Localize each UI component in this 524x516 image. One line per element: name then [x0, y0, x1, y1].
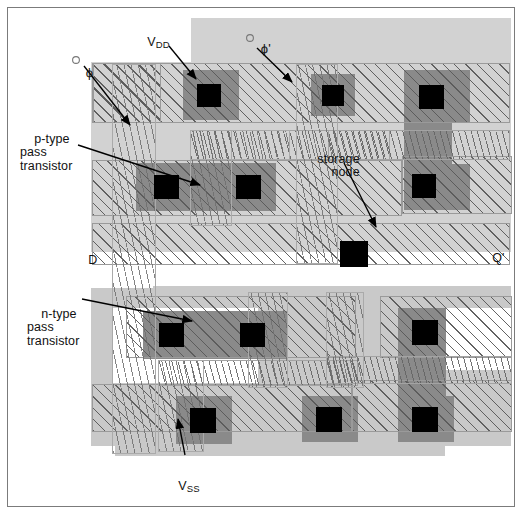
leader-vss	[178, 419, 185, 455]
label-phi: ϕ	[71, 52, 93, 93]
label-d-text: D	[88, 253, 97, 267]
label-vss: VSS	[164, 466, 200, 509]
label-phi-prime: ϕ'	[246, 28, 271, 69]
label-p-type-pass-transistor: p-type pass transistor	[20, 119, 72, 187]
label-vss-sub: SS	[187, 483, 200, 494]
label-p-type-text: p-type pass transistor	[20, 132, 72, 173]
figure-cmos-layout: VDD ϕ ϕ' p-type pass transistor storage …	[0, 0, 524, 516]
label-vss-text: V	[178, 479, 186, 493]
leader-vdd	[169, 46, 196, 79]
label-storage-node-text: storage node	[317, 152, 359, 180]
label-phi-prime-text: ϕ'	[261, 41, 271, 56]
label-storage-node: storage node	[303, 139, 360, 193]
leader-n-type	[82, 299, 192, 321]
label-n-type-pass-transistor: n-type pass transistor	[27, 294, 79, 362]
label-q-prime: Q'	[478, 238, 505, 279]
label-q-prime-text: Q'	[492, 251, 504, 265]
label-vdd-text: V	[147, 35, 155, 49]
label-n-type-text: n-type pass transistor	[27, 307, 79, 348]
label-d: D	[74, 240, 97, 281]
leader-p-type	[78, 145, 200, 185]
label-phi-text: ϕ	[86, 65, 93, 80]
label-vdd: VDD	[133, 22, 170, 65]
label-vdd-sub: DD	[156, 39, 170, 50]
